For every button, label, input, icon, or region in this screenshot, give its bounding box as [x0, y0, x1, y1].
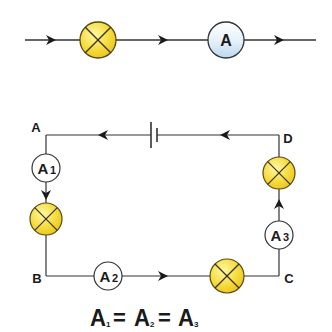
ammeter-label: A — [220, 32, 232, 49]
corner-label-a: A — [31, 120, 41, 135]
circuit-diagram: A A 1 — [0, 0, 332, 332]
svg-text:2: 2 — [112, 272, 118, 284]
bulb-icon — [30, 203, 62, 235]
ammeter-icon: A — [208, 22, 244, 58]
corner-label-b: B — [32, 271, 41, 286]
svg-text:=: = — [113, 305, 126, 330]
svg-text:A: A — [100, 268, 111, 285]
svg-text:1: 1 — [106, 320, 111, 329]
svg-text:A: A — [134, 304, 150, 331]
bulb-icon — [210, 259, 244, 293]
svg-text:2: 2 — [150, 320, 155, 329]
equation: A 1 = A 2 = A 3 — [90, 304, 199, 331]
loop-circuit: A 1 A 2 A 3 — [30, 120, 295, 293]
ammeter-a2: A 2 — [94, 262, 122, 290]
svg-text:A: A — [90, 304, 106, 331]
corner-label-c: C — [284, 271, 294, 286]
svg-text:=: = — [158, 305, 171, 330]
bulb-icon — [80, 22, 116, 58]
corner-label-d: D — [283, 131, 292, 146]
ammeter-a3: A 3 — [265, 221, 293, 249]
svg-text:3: 3 — [283, 231, 289, 243]
ammeter-a1: A 1 — [32, 154, 60, 182]
battery-icon — [151, 122, 157, 148]
bulb-icon — [263, 157, 295, 189]
svg-text:A: A — [271, 227, 282, 244]
svg-text:3: 3 — [194, 320, 199, 329]
svg-text:A: A — [178, 304, 194, 331]
svg-text:1: 1 — [50, 164, 56, 176]
svg-text:A: A — [38, 160, 49, 177]
top-series-circuit: A — [25, 22, 316, 58]
